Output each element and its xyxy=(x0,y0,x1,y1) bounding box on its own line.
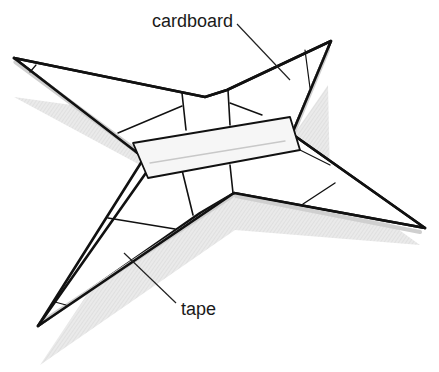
tape-label: tape xyxy=(181,300,216,318)
shuriken-diagram: cardboard tape xyxy=(0,0,439,372)
cardboard-label: cardboard xyxy=(152,12,233,30)
star-body xyxy=(14,41,425,326)
shuriken-illustration xyxy=(0,0,439,372)
